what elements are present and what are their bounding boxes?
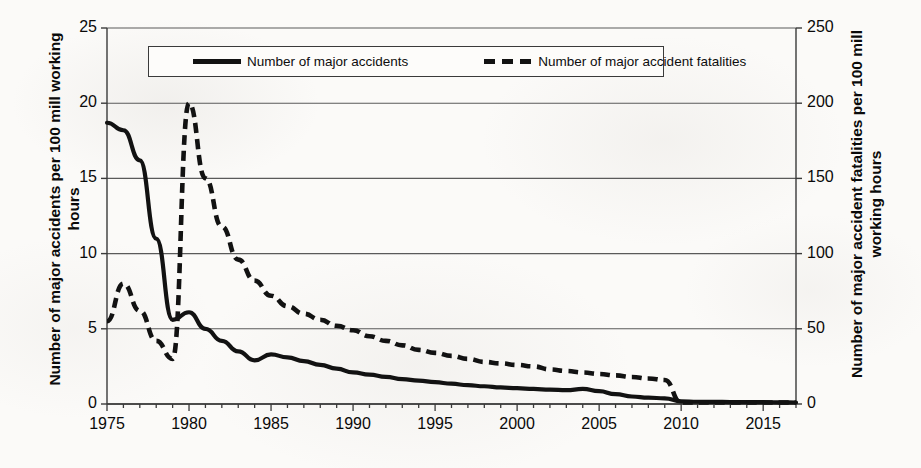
x-tick-label: 1985 [241,415,301,433]
right-tick-label: 150 [807,168,859,186]
x-tick-label: 1990 [323,415,383,433]
series-line-1 [107,123,796,403]
right-tick-label: 250 [807,18,859,36]
legend-entry-major-accident-fatalities: Number of major accident fatalities [484,47,746,76]
right-tick-label: 50 [807,319,859,337]
chart-figure: Number of major accidents per 100 mill w… [0,0,921,468]
x-tick-label: 1980 [159,415,219,433]
gridlines [107,28,796,404]
legend-label-major-accident-fatalities: Number of major accident fatalities [538,54,746,69]
left-tick-label: 25 [51,18,97,36]
series-line-2 [107,103,796,402]
legend-entry-major-accidents: Number of major accidents [193,47,408,76]
left-tick-label: 20 [51,93,97,111]
legend-label-major-accidents: Number of major accidents [247,54,408,69]
right-tick-label: 200 [807,93,859,111]
axis-frame [107,28,796,404]
x-tick-label: 2000 [487,415,547,433]
x-tick-label: 2005 [569,415,629,433]
left-tick-label: 15 [51,168,97,186]
chart-legend: Number of major accidents Number of majo… [148,46,664,77]
right-tick-label: 100 [807,244,859,262]
legend-swatch-dashed-line-icon [484,59,532,64]
right-tick-label: 0 [807,394,859,412]
left-tick-label: 0 [51,394,97,412]
x-tick-label: 2015 [733,415,793,433]
x-tick-label: 1995 [405,415,465,433]
x-tick-label: 2010 [651,415,711,433]
x-tick-label: 1975 [77,415,137,433]
left-tick-label: 5 [51,319,97,337]
legend-swatch-solid-line-icon [193,59,241,64]
left-tick-label: 10 [51,244,97,262]
data-series-layer [107,103,796,402]
axis-ticks [101,28,802,411]
